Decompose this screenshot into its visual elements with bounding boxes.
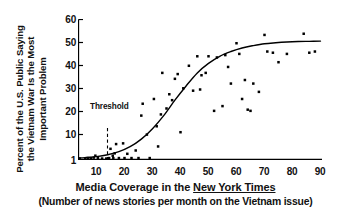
- fitted-curve: [78, 41, 320, 158]
- data-point: [277, 61, 280, 64]
- data-point: [188, 65, 191, 68]
- x-tick-label-50: 50: [197, 167, 219, 177]
- data-point: [272, 51, 275, 54]
- y-tick-label-50: 50: [56, 38, 76, 48]
- x-tick-label-30: 30: [141, 167, 163, 177]
- data-point: [314, 50, 317, 53]
- x-tick-label-40: 40: [169, 167, 191, 177]
- data-point: [137, 157, 140, 160]
- data-point: [302, 32, 305, 35]
- y-axis-title-line3: Important Problem: [37, 57, 48, 141]
- y-axis-ticks: [79, 20, 84, 135]
- data-point: [249, 110, 252, 113]
- x-tick-label-60: 60: [225, 167, 247, 177]
- data-point: [244, 79, 247, 82]
- data-point: [101, 157, 104, 160]
- data-point: [108, 157, 111, 160]
- data-point: [122, 142, 125, 145]
- x-axis-title-plain: Media Coverage in the: [76, 181, 194, 193]
- data-point: [160, 113, 163, 116]
- data-point: [112, 157, 115, 160]
- data-point: [115, 143, 118, 146]
- data-point: [165, 107, 168, 110]
- x-tick-label-10: 10: [85, 167, 107, 177]
- data-point: [140, 114, 143, 117]
- x-tick-label-70: 70: [253, 167, 275, 177]
- data-point: [241, 98, 244, 101]
- data-point: [230, 82, 233, 85]
- plot-svg: [78, 19, 322, 160]
- y-tick-label-1: 1: [56, 156, 76, 166]
- y-axis-title-line2: the Vietnam War Is the Most: [25, 37, 36, 162]
- data-point: [199, 88, 202, 91]
- y-axis-title: Percent of the U.S. Public Saying the Vi…: [8, 14, 54, 184]
- data-point: [141, 102, 144, 105]
- data-point: [192, 89, 195, 92]
- data-point: [153, 98, 156, 101]
- scatter-plot-figure: Percent of the U.S. Public Saying the Vi…: [0, 0, 351, 217]
- x-tick-label-80: 80: [281, 167, 303, 177]
- data-point: [235, 42, 238, 45]
- data-point: [171, 99, 174, 102]
- data-point: [174, 78, 177, 81]
- y-tick-label-20: 20: [56, 107, 76, 117]
- data-point: [168, 93, 171, 96]
- data-point: [105, 157, 108, 160]
- data-point: [221, 105, 224, 108]
- data-point: [213, 110, 216, 113]
- data-point: [286, 53, 289, 56]
- data-point: [263, 34, 266, 37]
- data-point: [227, 66, 230, 69]
- data-point: [148, 157, 151, 160]
- data-point: [134, 149, 137, 152]
- data-point: [196, 55, 199, 58]
- x-axis-subtitle: (Number of news stories per month on the…: [0, 196, 351, 207]
- data-point: [118, 157, 121, 160]
- data-point: [176, 73, 179, 76]
- y-tick-label-30: 30: [56, 84, 76, 94]
- data-point: [200, 74, 203, 77]
- x-tick-label-20: 20: [113, 167, 135, 177]
- y-tick-label-60: 60: [56, 15, 76, 25]
- y-axis-title-line1: Percent of the U.S. Public Saying: [14, 25, 25, 173]
- data-point: [123, 157, 126, 160]
- data-point: [246, 108, 249, 111]
- data-point: [109, 148, 112, 151]
- data-point: [252, 82, 255, 85]
- data-point: [111, 154, 114, 157]
- x-axis-title: Media Coverage in the New York Times: [0, 181, 351, 193]
- data-point: [207, 55, 210, 58]
- data-point: [258, 91, 261, 94]
- data-point: [161, 72, 164, 75]
- x-axis-title-source: New York Times: [193, 181, 275, 193]
- data-point: [130, 157, 133, 160]
- data-point: [126, 153, 129, 156]
- y-tick-label-40: 40: [56, 61, 76, 71]
- plot-area: [78, 19, 322, 160]
- data-point: [308, 51, 311, 54]
- scatter-points: [78, 32, 316, 159]
- data-point: [238, 53, 241, 56]
- data-point: [204, 72, 207, 75]
- x-tick-label-90: 90: [309, 167, 331, 177]
- y-tick-label-10: 10: [56, 130, 76, 140]
- data-point: [179, 131, 182, 134]
- data-point: [157, 145, 160, 148]
- data-point: [266, 50, 269, 53]
